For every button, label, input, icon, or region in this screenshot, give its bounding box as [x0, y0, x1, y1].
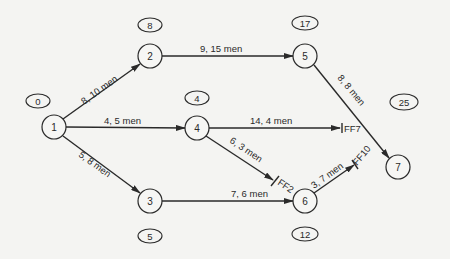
time-oval-node-2: 8 [138, 18, 162, 32]
node-2-label: 2 [147, 51, 153, 62]
label-1-2: 8, 10 men [79, 73, 120, 107]
label-5-7: 8, 8 men [335, 72, 367, 107]
node-6-label: 6 [302, 196, 308, 207]
arrow-5-7 [314, 65, 389, 158]
label-4-ff7: 14, 4 men [250, 115, 292, 126]
time-oval-node-3: 5 [138, 229, 162, 243]
time-node-1: 0 [35, 96, 40, 107]
time-oval-node-6: 12 [292, 227, 318, 241]
node-5-label: 5 [302, 51, 308, 62]
time-node-6: 12 [300, 229, 311, 240]
time-node-4: 4 [194, 93, 199, 104]
node-2: 2 [138, 44, 162, 68]
time-node-7: 25 [399, 97, 410, 108]
node-3-label: 3 [147, 196, 153, 207]
label-3-6: 7, 6 men [231, 188, 268, 199]
label-1-4: 4, 5 men [104, 115, 141, 126]
node-7-label: 7 [395, 162, 401, 173]
time-node-3: 5 [147, 231, 152, 242]
node-4: 4 [185, 116, 209, 140]
time-oval-node-4: 4 [185, 91, 209, 105]
arrow-1-4 [66, 127, 185, 128]
node-3: 3 [138, 189, 162, 213]
ff7-label: FF7 [344, 123, 361, 134]
node-1-label: 1 [51, 122, 57, 133]
node-4-label: 4 [194, 123, 200, 134]
ff10-label: FF10 [350, 143, 373, 167]
time-node-2: 8 [147, 20, 152, 31]
node-6: 6 [293, 189, 317, 213]
activity-labels: 8, 10 men 4, 5 men 5, 8 men 9, 15 men 8,… [77, 43, 373, 199]
time-oval-node-7: 25 [390, 94, 418, 110]
node-7: 7 [386, 155, 410, 179]
node-5: 5 [293, 44, 317, 68]
time-oval-node-1: 0 [26, 94, 50, 108]
label-2-5: 9, 15 men [200, 43, 242, 54]
node-1: 1 [42, 115, 66, 139]
ff2-label: FF2 [276, 177, 296, 196]
time-oval-node-5: 17 [292, 16, 318, 30]
network-diagram: 8, 10 men 4, 5 men 5, 8 men 9, 15 men 8,… [0, 0, 450, 259]
label-4-ff2: 6, 3 men [228, 135, 265, 165]
label-1-3: 5, 8 men [77, 149, 113, 180]
time-node-5: 17 [300, 18, 311, 29]
